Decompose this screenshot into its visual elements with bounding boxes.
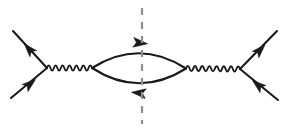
boson-propagator-left-line [47, 65, 92, 70]
loop-fermion-lower-line [92, 68, 186, 83]
loop-fermion-lower-arrow [131, 87, 146, 98]
loop-fermion-upper-arrow [133, 37, 148, 48]
feynman-diagram-canvas [0, 0, 291, 131]
boson-propagator-right-line [186, 66, 240, 72]
loop-fermion-upper-line [92, 53, 186, 68]
feynman-diagram-figure [0, 0, 291, 131]
